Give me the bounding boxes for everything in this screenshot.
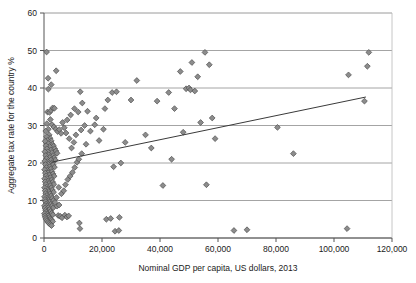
data-point	[154, 98, 160, 104]
x-tick-label: 40,000	[147, 244, 173, 254]
data-point	[114, 89, 120, 95]
data-point	[63, 130, 69, 136]
x-tick-label: 100,000	[319, 244, 350, 254]
data-point	[231, 228, 237, 234]
x-tick-label: 80,000	[263, 244, 289, 254]
data-point	[56, 184, 62, 190]
data-point	[244, 227, 250, 233]
data-point	[77, 89, 83, 95]
data-point	[206, 62, 212, 68]
data-point	[111, 164, 117, 170]
data-point	[101, 126, 107, 132]
scatter-chart: 0102030405060020,00040,00060,00080,00010…	[0, 0, 416, 283]
data-point	[76, 220, 82, 226]
data-point	[189, 60, 195, 66]
data-point	[78, 127, 84, 133]
data-point	[172, 106, 178, 112]
data-point	[93, 115, 99, 121]
data-points	[42, 49, 372, 234]
data-point	[346, 72, 352, 78]
data-point	[105, 97, 111, 103]
data-point	[96, 138, 102, 144]
data-point	[117, 214, 123, 220]
data-point	[143, 132, 149, 138]
data-point	[82, 123, 88, 129]
data-point	[212, 136, 218, 142]
data-point	[362, 98, 368, 104]
data-point	[169, 156, 175, 162]
tick-marks: 0102030405060020,00040,00060,00080,00010…	[28, 8, 408, 254]
data-point	[69, 145, 75, 151]
data-point	[166, 90, 172, 96]
data-point	[291, 151, 297, 157]
data-point	[102, 106, 108, 112]
y-tick-label: 30	[28, 121, 38, 131]
data-point	[63, 182, 69, 188]
data-point	[45, 75, 51, 81]
y-tick-label: 0	[32, 233, 37, 243]
data-point	[160, 183, 166, 189]
data-point	[364, 63, 370, 69]
data-point	[83, 141, 89, 147]
x-tick-label: 20,000	[89, 244, 115, 254]
data-point	[195, 74, 201, 80]
data-point	[134, 78, 140, 84]
data-point	[204, 182, 210, 188]
data-point	[177, 69, 183, 75]
x-axis-title: Nominal GDP per capita, US dollars, 2013	[138, 263, 297, 273]
data-point	[47, 117, 53, 123]
trend-line	[51, 97, 366, 162]
x-tick-label: 60,000	[205, 244, 231, 254]
chart-canvas: 0102030405060020,00040,00060,00080,00010…	[0, 0, 416, 283]
y-tick-label: 60	[28, 8, 38, 18]
data-point	[68, 112, 74, 118]
data-point	[344, 226, 350, 232]
y-axis-title: Aggregate tax rate for the country %	[6, 57, 16, 194]
data-point	[53, 68, 59, 74]
data-point	[148, 145, 154, 151]
data-point	[71, 139, 77, 145]
data-point	[108, 216, 114, 222]
data-point	[118, 160, 124, 166]
data-point	[122, 139, 128, 145]
data-point	[198, 120, 204, 126]
data-point	[73, 132, 79, 138]
data-point	[66, 136, 72, 142]
data-point	[44, 49, 50, 55]
data-point	[92, 122, 98, 128]
y-tick-label: 50	[28, 46, 38, 56]
data-point	[88, 128, 94, 134]
data-point	[85, 108, 91, 114]
data-point	[79, 100, 85, 106]
x-tick-label: 0	[42, 244, 47, 254]
y-tick-label: 10	[28, 196, 38, 206]
data-point	[209, 115, 215, 121]
data-point	[77, 226, 83, 232]
data-point	[128, 97, 134, 103]
y-tick-label: 20	[28, 158, 38, 168]
y-tick-label: 40	[28, 83, 38, 93]
x-tick-label: 120,000	[377, 244, 408, 254]
